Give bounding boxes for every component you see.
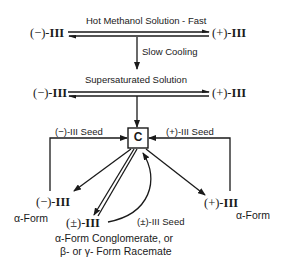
to-racemate-arrow-a	[94, 149, 134, 215]
right-product-compound: (+)-III	[204, 197, 238, 210]
compound-prefix: (−)-	[30, 26, 50, 40]
compound-numeral: III	[224, 196, 239, 210]
middle-left-compound: (−)-III	[33, 87, 67, 100]
compound-prefix: (+)-	[212, 26, 232, 40]
racemic-seed-label: (±)-III Seed	[137, 217, 184, 227]
to-left-product-arrow	[74, 149, 131, 191]
compound-numeral: III	[232, 86, 247, 100]
top-left-compound: (−)-III	[30, 27, 64, 40]
middle-right-compound: (+)-III	[212, 87, 246, 100]
left-seed-arrow	[50, 138, 127, 191]
compound-prefix: (−)-	[33, 86, 53, 100]
compound-numeral: III	[232, 26, 247, 40]
racemic-product-compound: (±)-III	[66, 217, 100, 230]
hot-methanol-label: Hot Methanol Solution - Fast	[86, 16, 206, 26]
slow-cooling-label: Slow Cooling	[142, 47, 197, 57]
compound-prefix: (+)-	[212, 86, 232, 100]
crystallization-scheme-diagram: Hot Methanol Solution - Fast (−)-III (+)…	[0, 0, 289, 273]
top-equilibrium-arrow	[68, 30, 210, 39]
left-seed-label: (−)-III Seed	[55, 127, 103, 137]
middle-equilibrium-arrow	[68, 90, 210, 99]
compound-numeral: III	[85, 216, 100, 230]
racemic-product-line2: β- or γ- Form Racemate	[60, 246, 172, 257]
racemic-product-line1: α-Form Conglomerate, or	[55, 233, 173, 244]
left-product-compound: (−)-III	[36, 196, 70, 209]
compound-numeral: III	[50, 26, 65, 40]
to-right-product-arrow	[146, 149, 205, 195]
compound-prefix: (+)-	[204, 196, 224, 210]
compound-numeral: III	[53, 86, 68, 100]
supersaturated-label: Supersaturated Solution	[85, 75, 187, 85]
top-right-compound: (+)-III	[212, 27, 246, 40]
left-product-form: α-Form	[14, 213, 48, 224]
compound-prefix: (±)-	[66, 216, 85, 230]
compound-prefix: (−)-	[36, 195, 56, 209]
right-seed-label: (+)-III Seed	[166, 127, 214, 137]
compound-numeral: III	[56, 195, 71, 209]
center-node-label: C	[128, 131, 148, 143]
right-product-form: α-Form	[236, 210, 270, 221]
